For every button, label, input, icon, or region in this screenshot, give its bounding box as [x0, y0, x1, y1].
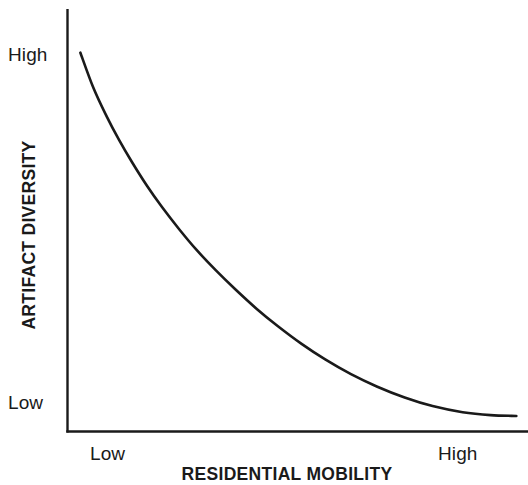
- chart-figure: High Low Low High ARTIFACT DIVERSITY RES…: [0, 0, 528, 485]
- y-axis-title: ARTIFACT DIVERSITY: [21, 140, 39, 329]
- y-axis-low-label: Low: [8, 393, 43, 412]
- data-series-line: [80, 53, 516, 416]
- y-axis-high-label: High: [8, 45, 47, 64]
- x-axis-low-label: Low: [90, 444, 125, 463]
- x-axis-high-label: High: [438, 444, 477, 463]
- x-axis-title: RESIDENTIAL MOBILITY: [182, 466, 393, 484]
- chart-plot-area: [0, 0, 528, 485]
